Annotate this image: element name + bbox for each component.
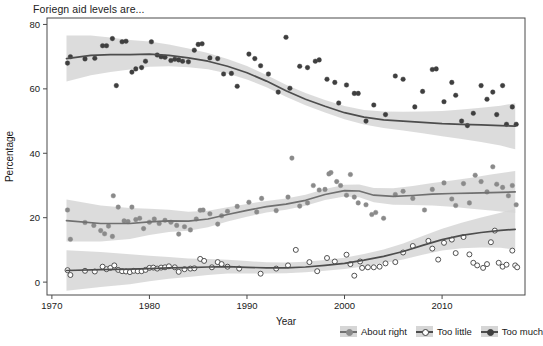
data-point <box>467 201 472 206</box>
data-point <box>284 35 289 40</box>
data-point <box>258 63 263 68</box>
data-point <box>434 67 439 72</box>
data-point <box>377 264 382 269</box>
data-point <box>401 77 406 82</box>
data-point <box>459 119 464 124</box>
data-point <box>479 83 484 88</box>
data-point <box>411 196 416 201</box>
data-point <box>307 260 312 265</box>
data-point <box>496 260 501 265</box>
data-point <box>225 209 230 214</box>
legend-swatch-too-little <box>416 326 433 337</box>
data-point <box>430 187 435 192</box>
data-point <box>475 263 480 268</box>
data-point <box>453 203 458 208</box>
data-point <box>344 252 349 257</box>
data-point <box>266 72 271 77</box>
data-point <box>317 58 322 63</box>
data-point <box>202 258 207 263</box>
data-point <box>436 257 441 262</box>
data-point <box>116 205 121 210</box>
data-point <box>112 263 117 268</box>
legend-item-too-little[interactable]: Too little <box>416 326 472 337</box>
data-point <box>68 237 73 242</box>
legend-swatch-about-right <box>340 326 357 337</box>
data-point <box>297 204 302 209</box>
data-point <box>510 105 515 110</box>
data-point <box>201 208 206 213</box>
legend-label-too-little: Too little <box>437 326 472 337</box>
data-point <box>485 97 490 102</box>
data-point <box>293 247 298 252</box>
x-axis-label: Year <box>276 316 297 327</box>
data-point <box>364 203 369 208</box>
data-point <box>494 112 499 117</box>
data-point <box>235 84 240 89</box>
legend-swatch-too-much <box>481 326 498 337</box>
data-point <box>152 217 157 222</box>
data-point <box>186 60 191 65</box>
data-point <box>336 101 341 106</box>
data-point <box>93 56 98 61</box>
data-point <box>510 183 515 188</box>
data-point <box>176 269 181 274</box>
data-point <box>98 228 103 233</box>
data-point <box>491 90 496 95</box>
data-point <box>110 234 115 239</box>
data-point <box>288 86 293 91</box>
y-tick-label: 80 <box>29 19 40 30</box>
data-point <box>442 240 447 245</box>
data-point <box>130 205 135 210</box>
x-tick-label: 2010 <box>432 300 453 311</box>
data-point <box>422 208 427 213</box>
data-point <box>352 273 357 278</box>
data-point <box>286 195 291 200</box>
data-point <box>372 103 377 108</box>
data-point <box>450 80 455 85</box>
data-point <box>274 208 279 213</box>
data-point <box>333 80 338 85</box>
legend-label-too-much: Too much <box>502 326 543 337</box>
data-point <box>182 224 187 229</box>
data-point <box>453 251 458 256</box>
data-point <box>500 83 505 88</box>
data-point <box>381 216 386 221</box>
data-point <box>188 228 193 233</box>
data-point <box>65 208 70 213</box>
data-point <box>393 260 398 265</box>
x-tick-label: 2000 <box>334 300 355 311</box>
y-tick-label: 0 <box>35 277 40 288</box>
data-point <box>479 179 484 184</box>
data-point <box>401 189 406 194</box>
data-point <box>141 226 146 231</box>
data-point <box>450 197 455 202</box>
data-point <box>442 99 447 104</box>
data-point <box>290 156 295 161</box>
data-point <box>68 273 73 278</box>
data-point <box>325 256 330 261</box>
data-point <box>83 57 88 62</box>
legend-item-about-right[interactable]: About right <box>340 326 407 337</box>
data-point <box>471 111 476 116</box>
data-point <box>360 265 365 270</box>
data-point <box>315 269 320 274</box>
x-tick-label: 1990 <box>236 300 257 311</box>
data-point <box>297 64 302 69</box>
data-point <box>430 246 435 251</box>
legend-item-too-much[interactable]: Too much <box>481 326 543 337</box>
data-point <box>110 36 115 41</box>
data-point <box>139 65 144 70</box>
data-point <box>504 262 509 267</box>
data-point <box>514 203 519 208</box>
data-point <box>65 61 70 66</box>
y-tick-label: 40 <box>29 148 40 159</box>
data-point <box>356 201 361 206</box>
data-point <box>393 74 398 79</box>
data-point <box>149 40 154 45</box>
data-point <box>247 200 252 205</box>
data-point <box>176 232 181 237</box>
x-tick-label: 1970 <box>41 300 62 311</box>
data-point <box>323 187 328 192</box>
